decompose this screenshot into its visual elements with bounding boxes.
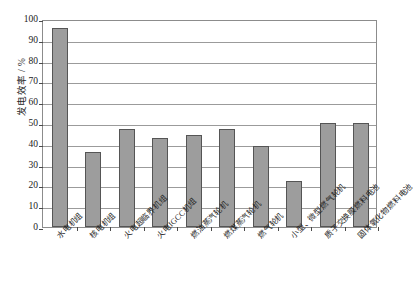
bar — [119, 129, 135, 227]
y-tick-label: 90 — [12, 36, 38, 46]
x-tick-mark — [77, 227, 78, 231]
y-tick-label: 20 — [12, 181, 38, 191]
bar — [286, 181, 302, 227]
y-tick-label: 0 — [12, 223, 38, 233]
x-tick-mark — [177, 227, 178, 231]
y-tick-label: 60 — [12, 98, 38, 108]
y-tick-label: 40 — [12, 140, 38, 150]
bar — [253, 146, 269, 227]
bar — [186, 135, 202, 227]
bar — [85, 152, 101, 227]
y-tick-mark — [39, 229, 43, 230]
plot-area — [42, 20, 377, 228]
x-tick-mark — [311, 227, 312, 231]
x-tick-mark — [144, 227, 145, 231]
x-tick-mark — [244, 227, 245, 231]
bar — [52, 28, 68, 227]
y-tick-label: 70 — [12, 77, 38, 87]
bar — [219, 129, 235, 227]
y-tick-label: 50 — [12, 119, 38, 129]
bar — [320, 123, 336, 227]
y-tick-label: 100 — [12, 15, 38, 25]
x-tick-mark — [110, 227, 111, 231]
x-tick-mark — [378, 227, 379, 231]
x-tick-mark — [345, 227, 346, 231]
y-axis-tick-labels: 1009080706050403020100 — [12, 20, 38, 228]
y-tick-label: 10 — [12, 202, 38, 212]
bar — [152, 138, 168, 227]
bar-series — [43, 21, 376, 227]
x-tick-mark — [278, 227, 279, 231]
y-tick-label: 80 — [12, 57, 38, 67]
bar — [353, 123, 369, 227]
x-tick-mark — [211, 227, 212, 231]
y-tick-label: 30 — [12, 161, 38, 171]
